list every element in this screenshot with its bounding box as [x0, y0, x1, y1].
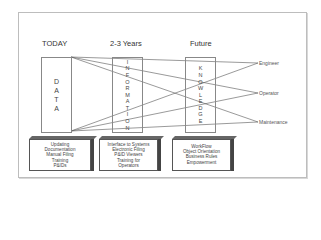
box-letter: E — [199, 98, 203, 105]
card-item: Operators — [100, 163, 157, 168]
knowledge-box: KNOWLEDGE — [185, 57, 216, 133]
card-item: P&IDs — [30, 163, 90, 168]
card-future: WorkFlow Object Orientation Business Rul… — [172, 139, 231, 171]
card-2-3-years-items: Interface to Systems Electronic Filing P… — [100, 140, 157, 168]
box-letter: O — [125, 79, 129, 86]
box-letter: D — [199, 105, 203, 112]
box-letter: N — [199, 72, 203, 79]
box-letter: E — [199, 118, 203, 125]
role-maintenance: Maintenance — [259, 119, 288, 125]
card-2-3-years: Interface to Systems Electronic Filing P… — [99, 139, 158, 171]
box-letter: M — [125, 92, 130, 99]
box-letter: K — [199, 65, 203, 72]
box-letter: O — [198, 79, 202, 86]
box-letter: A — [126, 98, 130, 105]
card-future-items: WorkFlow Object Orientation Business Rul… — [173, 140, 230, 165]
box-letter: G — [198, 111, 202, 118]
role-engineer: Engineer — [259, 60, 279, 66]
box-letter: N — [126, 65, 130, 72]
box-letter: N — [126, 125, 130, 132]
card-today-items: Updating Documentation Manual Filing Tra… — [30, 140, 90, 168]
box-letter: R — [126, 85, 130, 92]
role-operator: Operator — [259, 90, 279, 96]
box-letter: F — [126, 72, 129, 79]
box-letter: T — [126, 105, 129, 112]
information-box: INFORMATION — [112, 57, 143, 133]
box-letter: D — [54, 77, 59, 86]
box-letter: W — [198, 85, 203, 92]
box-letter: A — [54, 104, 59, 113]
box-letter: I — [127, 111, 129, 118]
box-letter: O — [125, 118, 129, 125]
card-item: Empowerment — [173, 160, 230, 165]
data-box: DATA — [41, 57, 72, 133]
box-letter: A — [54, 86, 59, 95]
box-letter: I — [127, 59, 129, 66]
box-letter: T — [54, 95, 58, 104]
box-letter: L — [199, 92, 202, 99]
card-today: Updating Documentation Manual Filing Tra… — [29, 139, 91, 171]
